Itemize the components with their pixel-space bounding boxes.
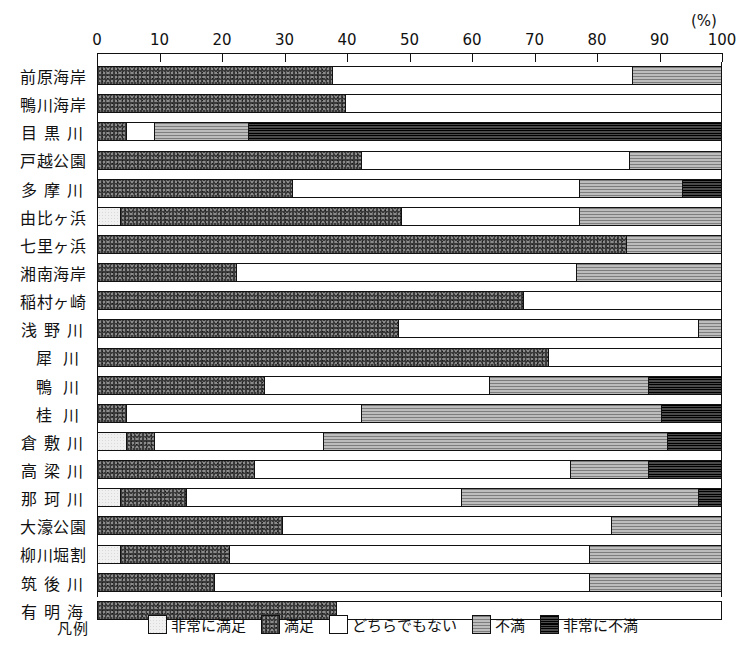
chart-row: 桂川: [0, 400, 745, 428]
bar-segment-vdis: [698, 489, 722, 506]
bar-segment-sat: [98, 405, 126, 422]
bar-segment-dis: [698, 320, 722, 337]
bar-segment-neu: [154, 433, 323, 450]
bar-segment-vdis: [648, 461, 722, 478]
legend-item-neu: どちらでもない: [329, 614, 457, 635]
legend-title: 凡例: [57, 617, 89, 638]
legend-swatch-neu: [329, 615, 348, 634]
bar-segment-vdis: [248, 123, 722, 140]
axis-tick-label-20: 20: [212, 31, 231, 49]
row-label-18: 筑後川: [0, 569, 90, 597]
bar-segment-neu: [292, 180, 580, 197]
legend-label-vsat: 非常に満足: [171, 614, 246, 635]
bar-segment-sat: [98, 292, 523, 309]
bar-segment-sat: [98, 320, 398, 337]
legend-swatch-vdis: [540, 615, 559, 634]
row-label-14: 高梁川: [0, 456, 90, 484]
axis-unit-label: (%): [691, 12, 717, 30]
axis-tick-label-30: 30: [275, 31, 294, 49]
bar-segment-sat: [98, 95, 345, 112]
row-label-7: 湘南海岸: [0, 259, 90, 287]
axis-tick-10: [160, 53, 161, 62]
legend-items: 非常に満足満足どちらでもない不満非常に不満: [148, 614, 638, 635]
chart-row: 柳川堀割: [0, 540, 745, 568]
bar-segment-dis: [570, 461, 648, 478]
bar-track: [97, 207, 722, 226]
row-label-13: 倉敷川: [0, 428, 90, 456]
axis-tick-label-100: 100: [708, 31, 737, 49]
axis-tick-60: [472, 53, 473, 62]
chart-row: 那珂川: [0, 484, 745, 512]
row-label-2: 目黒川: [0, 118, 90, 146]
bar-segment-sat: [126, 433, 154, 450]
axis-tick-label-50: 50: [400, 31, 419, 49]
legend-label-neu: どちらでもない: [352, 614, 457, 635]
bar-segment-dis: [626, 236, 722, 253]
bar-segment-dis: [361, 405, 661, 422]
bar-track: [97, 545, 722, 564]
bar-track: [97, 488, 722, 507]
bar-segment-neu: [401, 208, 579, 225]
bar-segment-vsat: [98, 489, 120, 506]
bar-segment-sat: [120, 546, 229, 563]
bar-segment-vsat: [98, 546, 120, 563]
chart-row: 戸越公園: [0, 146, 745, 174]
bar-segment-sat: [98, 67, 332, 84]
bar-segment-neu: [282, 517, 610, 534]
bar-segment-dis: [461, 489, 699, 506]
chart-row: 筑後川: [0, 569, 745, 597]
bar-segment-dis: [576, 264, 722, 281]
row-label-9: 浅野川: [0, 315, 90, 343]
row-label-6: 七里ヶ浜: [0, 231, 90, 259]
bar-segment-sat: [98, 574, 214, 591]
bar-track: [97, 319, 722, 338]
bar-segment-neu: [126, 123, 154, 140]
chart-row: 稲村ヶ崎: [0, 287, 745, 315]
bar-segment-vdis: [682, 180, 722, 197]
bar-track: [97, 151, 722, 170]
bar-segment-neu: [361, 152, 630, 169]
chart-row: 鴨川: [0, 372, 745, 400]
bar-track: [97, 460, 722, 479]
bar-segment-dis: [589, 546, 722, 563]
axis-tick-50: [410, 53, 411, 62]
bar-segment-neu: [186, 489, 461, 506]
stacked-bar-chart: (%) 0102030405060708090100 前原海岸鴨川海岸目黒川戸越…: [0, 0, 745, 667]
bar-track: [97, 94, 722, 113]
bar-segment-vsat: [98, 208, 120, 225]
bar-track: [97, 348, 722, 367]
bar-segment-vdis: [661, 405, 723, 422]
row-label-10: 犀川: [0, 343, 90, 371]
bar-segment-dis: [629, 152, 722, 169]
row-label-16: 大濠公園: [0, 512, 90, 540]
chart-row: 犀川: [0, 343, 745, 371]
bar-segment-neu: [214, 574, 589, 591]
bar-segment-neu: [398, 320, 698, 337]
chart-row: 由比ヶ浜: [0, 203, 745, 231]
row-label-1: 鴨川海岸: [0, 90, 90, 118]
bar-track: [97, 263, 722, 282]
bar-segment-dis: [154, 123, 248, 140]
bar-segment-neu: [264, 377, 489, 394]
chart-row: 浅野川: [0, 315, 745, 343]
legend-item-vsat: 非常に満足: [148, 614, 246, 635]
bar-segment-vsat: [98, 433, 126, 450]
bar-segment-sat: [98, 377, 264, 394]
axis-tick-100: [722, 53, 723, 62]
bar-segment-sat: [98, 461, 254, 478]
legend-item-dis: 不満: [472, 614, 525, 635]
bar-segment-sat: [98, 180, 292, 197]
axis-tick-label-10: 10: [150, 31, 169, 49]
bar-segment-neu: [523, 292, 722, 309]
row-label-11: 鴨川: [0, 372, 90, 400]
chart-row: 大濠公園: [0, 512, 745, 540]
bar-segment-neu: [254, 461, 570, 478]
bar-segment-neu: [345, 95, 722, 112]
bar-segment-dis: [589, 574, 722, 591]
chart-row: 鴨川海岸: [0, 90, 745, 118]
axis-tick-90: [660, 53, 661, 62]
bar-track: [97, 122, 722, 141]
bar-segment-sat: [120, 208, 401, 225]
legend-label-dis: 不満: [495, 614, 525, 635]
axis-tick-0: [97, 53, 98, 62]
